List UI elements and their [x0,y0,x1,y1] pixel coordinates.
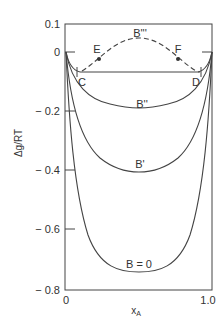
label-b2: B'' [136,98,148,110]
y-tick-m0.6: − 0.6 [35,223,60,235]
x-tick-0: 0 [63,294,69,306]
y-tick-m0.4: − 0.4 [35,164,60,176]
y-tick-0.1: 0.1 [45,18,60,30]
x-tick-1.0: 1.0 [200,294,215,306]
gibbs-mixing-chart: 0.1 0 − 0.2 − 0.4 − 0.6 − 0.8 Δg/RT 0 1.… [0,0,221,332]
y-tick-m0.8: − 0.8 [35,284,60,296]
x-axis-label: xA [131,305,141,317]
label-b3: B''' [133,27,147,39]
point-e [97,57,101,61]
label-f: F [175,43,182,55]
y-tick-0: 0 [54,46,60,58]
label-d: D [192,76,200,88]
y-axis-label: Δg/RT [13,129,24,157]
plot-frame [65,24,212,290]
label-b0: B = 0 [126,258,152,270]
label-b1: B' [135,158,144,170]
point-f [176,57,180,61]
curve-b1 [66,52,212,172]
label-c: C [78,76,86,88]
label-e: E [93,43,100,55]
y-tick-m0.2: − 0.2 [35,105,60,117]
